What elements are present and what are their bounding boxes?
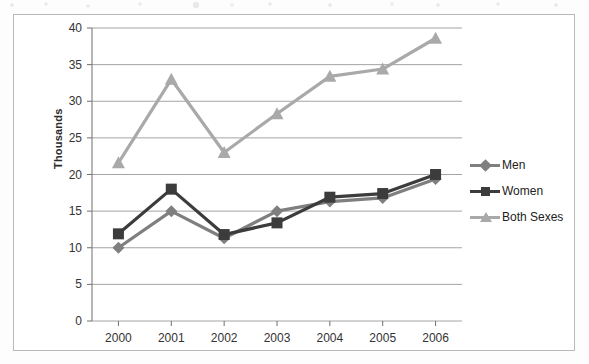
legend-swatch-square-icon (470, 185, 500, 197)
legend-swatch-triangle-icon (470, 211, 500, 223)
legend-marker-square-icon (481, 187, 490, 196)
x-axis-tick-label: 2004 (317, 331, 344, 345)
data-point (429, 32, 442, 44)
legend-swatch-diamond-icon (470, 159, 500, 171)
legend-item-both-sexes[interactable]: Both Sexes (470, 204, 563, 230)
y-axis-tick-label: 30 (69, 94, 83, 108)
x-axis-tick-label: 2003 (264, 331, 291, 345)
data-point (166, 184, 177, 195)
chart-legend: MenWomenBoth Sexes (470, 152, 563, 230)
data-point (324, 192, 335, 203)
y-axis-tick-label: 35 (69, 58, 83, 72)
y-axis-tick-label: 40 (69, 21, 83, 35)
y-axis-tick-label: 25 (69, 131, 83, 145)
x-axis-tick-label: 2002 (211, 331, 238, 345)
data-point (165, 73, 178, 85)
series-both-sexes (112, 32, 442, 169)
y-axis-tick-label: 0 (75, 314, 82, 328)
x-axis-tick-label: 2005 (369, 331, 396, 345)
x-axis-tick-label: 2001 (158, 331, 185, 345)
y-axis-tick-label: 5 (75, 277, 82, 291)
screenshot-root: Thousands 051015202530354020002001200220… (0, 0, 589, 364)
legend-label: Men (502, 158, 525, 172)
x-axis-tick-label: 2000 (105, 331, 132, 345)
legend-label: Women (502, 184, 543, 198)
data-point (271, 205, 283, 217)
data-point (113, 228, 124, 239)
legend-label: Both Sexes (502, 210, 563, 224)
y-axis-tick-label: 20 (69, 168, 83, 182)
legend-marker-diamond-icon (479, 159, 492, 172)
scan-artifact-band (0, 0, 589, 12)
data-point (272, 217, 283, 228)
legend-marker-triangle-icon (480, 212, 492, 222)
data-point (377, 188, 388, 199)
y-axis-tick-label: 10 (69, 241, 83, 255)
series-women (113, 169, 441, 240)
legend-item-women[interactable]: Women (470, 178, 563, 204)
legend-item-men[interactable]: Men (470, 152, 563, 178)
data-point (430, 169, 441, 180)
series-men (112, 173, 441, 254)
data-point (219, 229, 230, 240)
x-axis-tick-label: 2006 (422, 331, 449, 345)
y-axis-tick-label: 15 (69, 204, 83, 218)
